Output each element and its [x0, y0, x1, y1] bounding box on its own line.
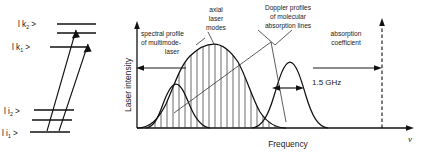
annotation-doppler-line2: of molecular: [270, 13, 307, 20]
annotation-axial-modes-line3: modes: [206, 24, 226, 31]
level-label-k2: l k2 >: [18, 20, 36, 30]
annotation-laser-profile-line2: of multimode-: [141, 39, 181, 46]
annotation-axial-modes-line1: axial: [209, 6, 223, 13]
physics-figure: l k2 > l k1 > l i2 > l i1 >: [0, 0, 425, 160]
annotation-axial-modes-line2: laser: [209, 15, 224, 22]
spectral-chart: Laser intensity Frequency ν spectral pro…: [123, 4, 414, 149]
energy-level-diagram: l k2 > l k1 > l i2 > l i1 >: [2, 20, 96, 139]
transition-arrow-i2-k2: [59, 44, 92, 131]
annotation-doppler-line3: absorption lines: [265, 22, 312, 30]
annotation-doppler-profiles: Doppler profiles of molecular absorption…: [265, 4, 312, 30]
annotation-laser-profile-line1: spectral profile: [141, 30, 184, 38]
span-arrow-right: [313, 65, 382, 71]
absorption-trend-line: [174, 42, 271, 113]
annotation-axial-modes: axial laser modes: [206, 6, 226, 31]
y-axis: [134, 21, 140, 128]
annotation-linewidth-label: 1.5 GHz: [312, 78, 341, 87]
leader-axial-modes: [208, 32, 214, 44]
transition-arrow-i1-k1: [47, 30, 80, 131]
absorption-coefficient-arrowhead: [379, 18, 385, 26]
level-label-k1: l k1 >: [12, 43, 30, 53]
x-axis-label: Frequency: [268, 139, 308, 149]
curve-doppler-profile-2: [252, 62, 328, 128]
leader-doppler-a: [258, 30, 275, 45]
level-label-i1: l i1 >: [2, 129, 18, 139]
leader-laser-profile: [196, 38, 205, 45]
annotation-absorption-coefficient: absorption coefficient: [331, 30, 362, 46]
y-axis-label: Laser intensity: [123, 57, 133, 112]
span-arrow-left: [136, 65, 186, 71]
x-axis-symbol: ν: [408, 134, 412, 144]
axial-laser-modes: [143, 40, 281, 128]
absorption-trend-fall: [271, 42, 286, 122]
annotation-absorption-line2: coefficient: [331, 39, 361, 46]
annotation-laser-profile: spectral profile of multimode- laser: [141, 30, 184, 55]
curve-doppler-profile-1: [146, 84, 210, 128]
annotation-doppler-line1: Doppler profiles: [265, 4, 312, 12]
leader-doppler-b: [275, 30, 292, 45]
annotation-laser-profile-line3: laser: [165, 48, 180, 55]
level-label-i2: l i2 >: [4, 107, 20, 117]
annotation-absorption-line1: absorption: [331, 30, 362, 38]
